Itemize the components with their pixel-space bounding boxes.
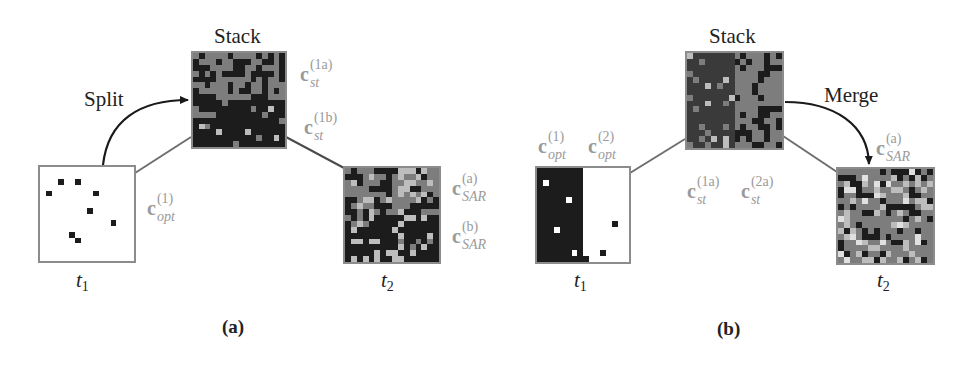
panel-a-label-c-st-1b: c(1b)st [304, 117, 336, 145]
panel-a-t1-optical-image [38, 165, 136, 263]
panel-a-label-c-sar-b: c(b)SAR [452, 226, 485, 254]
connector-t1-to-stack-b [630, 139, 685, 173]
panel-b-label-c-opt-1: c(1)opt [538, 136, 565, 164]
panel-a-stack-title: Stack [214, 24, 261, 49]
panel-a-t2-label: t2 [381, 268, 394, 295]
panel-b-t2-label: t2 [877, 268, 890, 295]
merge-label: Merge [824, 83, 878, 108]
panel-a-caption: (a) [222, 316, 244, 338]
panel-a-t2-sar-image [343, 166, 441, 264]
panel-b-t1-label: t1 [574, 268, 587, 295]
panel-a-stack-image [191, 51, 287, 149]
panel-b-stack-image [685, 51, 784, 150]
pixel-cell [927, 257, 933, 263]
panel-a-t1-label: t1 [76, 268, 89, 295]
panel-b-label-c-st-2a: c(2a)st [741, 181, 772, 209]
panel-b-t1-optical-image [535, 166, 631, 264]
pixel-cell [279, 141, 285, 147]
panel-a-label-c-sar-a: c(a)SAR [452, 178, 485, 206]
panel-a-label-c-opt-1: c(1)opt [147, 198, 174, 226]
split-label: Split [84, 87, 124, 112]
panel-b-label-c-sar-a: c(a)SAR [876, 138, 909, 166]
panel-b-caption: (b) [717, 318, 740, 340]
connector-t1-to-stack-a [135, 137, 191, 173]
merge-arrow [785, 102, 869, 164]
pixel-cell [623, 256, 629, 262]
panel-a-label-c-st-1a: c(1a)st [300, 64, 331, 92]
pixel-cell [776, 142, 782, 148]
panel-b-label-c-opt-2: c(2)opt [588, 136, 615, 164]
figure: Stack Split c(1a)st c(1b)st c(1)opt c(a)… [0, 0, 968, 367]
pixel-cell [128, 255, 134, 261]
connector-stack-to-t2-b [783, 136, 837, 172]
pixel-cell [433, 256, 439, 262]
panel-b-t2-sar-image [836, 167, 935, 265]
panel-b-label-c-st-1a: c(1a)st [687, 181, 718, 209]
panel-b-stack-title: Stack [709, 24, 756, 49]
